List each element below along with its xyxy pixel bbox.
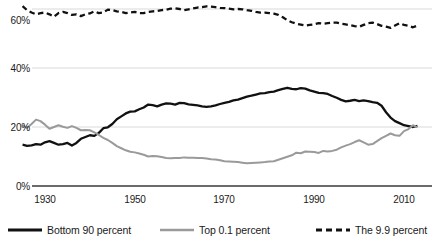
series-line-top-0-1-percent xyxy=(23,120,418,164)
x-axis-tick-1970: 1970 xyxy=(204,194,244,205)
x-axis-tick-2010: 2010 xyxy=(384,194,424,205)
legend-swatch-top-0-1 xyxy=(160,224,194,236)
chart-legend: Bottom 90 percent Top 0.1 percent The 9.… xyxy=(0,219,432,244)
legend-label-top-0-1: Top 0.1 percent xyxy=(199,224,270,236)
legend-item-bottom-90: Bottom 90 percent xyxy=(8,222,131,238)
x-axis-tick-1950: 1950 xyxy=(115,194,155,205)
series-line-bottom-90-percent xyxy=(23,88,418,146)
legend-label-the-9-9: The 9.9 percent xyxy=(355,224,427,236)
y-axis-tick-60: 60% xyxy=(0,15,30,26)
legend-item-top-0-1: Top 0.1 percent xyxy=(160,222,270,238)
legend-item-the-9-9: The 9.9 percent xyxy=(316,222,427,238)
legend-label-bottom-90: Bottom 90 percent xyxy=(47,224,131,236)
legend-swatch-bottom-90 xyxy=(8,224,42,236)
x-axis-tick-1930: 1930 xyxy=(25,194,65,205)
y-axis-tick-20: 20% xyxy=(0,122,30,133)
x-axis-tick-1990: 1990 xyxy=(294,194,334,205)
y-axis-tick-0: 0% xyxy=(0,181,30,192)
y-axis-tick-40: 40% xyxy=(0,63,30,74)
chart-plot-area xyxy=(0,0,432,244)
legend-swatch-the-9-9 xyxy=(316,224,350,236)
income-share-line-chart: 60% 40% 20% 0% 1930 1950 1970 1990 2010 … xyxy=(0,0,432,244)
